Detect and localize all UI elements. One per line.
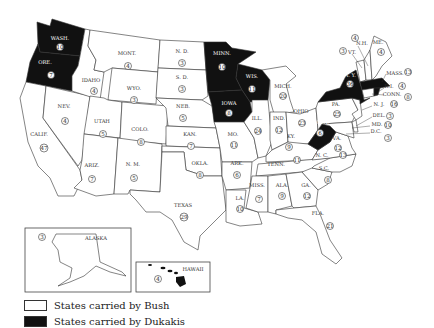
svg-text:KAN.: KAN. — [183, 131, 197, 137]
legend-swatch-bush — [24, 300, 47, 311]
svg-text:10: 10 — [236, 206, 244, 212]
svg-text:7: 7 — [189, 143, 193, 149]
legend-swatch-dukakis — [24, 316, 47, 327]
svg-text:24: 24 — [254, 128, 262, 134]
svg-text:GA.: GA. — [301, 182, 311, 188]
svg-text:ALA.: ALA. — [275, 182, 289, 188]
svg-text:16: 16 — [390, 101, 398, 107]
svg-text:8: 8 — [139, 139, 143, 145]
svg-text:12: 12 — [303, 193, 311, 199]
svg-text:4: 4 — [353, 35, 357, 41]
svg-text:VT.: VT. — [347, 49, 356, 55]
svg-text:MASS.: MASS. — [386, 70, 404, 76]
svg-text:N. J.: N. J. — [374, 101, 385, 108]
legend-label-bush: States carried by Bush — [54, 300, 170, 311]
svg-text:PA.: PA. — [332, 101, 341, 107]
svg-text:TENN.: TENN. — [267, 161, 285, 167]
svg-text:ARIZ.: ARIZ. — [84, 162, 100, 168]
svg-text:5: 5 — [132, 175, 136, 181]
svg-text:D.C.: D.C. — [370, 128, 381, 134]
svg-text:MO.: MO. — [228, 131, 239, 137]
hawaii-inset: HAWAII 4 — [136, 262, 210, 292]
legend-bush: States carried by Bush — [24, 300, 170, 311]
state-sd — [156, 68, 208, 100]
svg-text:3: 3 — [388, 113, 392, 119]
svg-text:S. D.: S. D. — [176, 74, 189, 80]
legend-dukakis: States carried by Dukakis — [24, 316, 185, 327]
svg-text:20: 20 — [279, 93, 287, 99]
label-wa: WASH. — [51, 35, 70, 41]
svg-text:N. C.: N. C. — [316, 152, 329, 158]
svg-text:MICH.: MICH. — [274, 83, 292, 89]
svg-text:8: 8 — [227, 110, 231, 116]
svg-text:TEXAS: TEXAS — [174, 202, 193, 208]
svg-text:4: 4 — [156, 276, 160, 282]
svg-text:4: 4 — [126, 63, 130, 69]
svg-text:8: 8 — [326, 177, 330, 183]
svg-text:NEV.: NEV. — [58, 103, 71, 109]
legend-label-dukakis: States carried by Dukakis — [54, 316, 185, 327]
alaska-inset: ALASKA 3 — [25, 228, 131, 292]
svg-text:CALIF.: CALIF. — [30, 131, 48, 137]
svg-text:UTAH: UTAH — [94, 118, 110, 124]
svg-text:13: 13 — [339, 152, 347, 158]
svg-text:12: 12 — [275, 127, 283, 133]
svg-text:CONN.: CONN. — [383, 91, 402, 97]
svg-text:11: 11 — [293, 157, 300, 163]
svg-text:9: 9 — [287, 144, 291, 150]
svg-text:ORE.: ORE. — [38, 59, 52, 65]
svg-text:WYO.: WYO. — [127, 85, 142, 91]
svg-text:KY.: KY. — [287, 133, 295, 139]
svg-text:7: 7 — [90, 176, 94, 182]
svg-text:6: 6 — [235, 172, 239, 178]
svg-text:3: 3 — [341, 48, 345, 54]
state-ri — [374, 88, 380, 96]
svg-text:ME.: ME. — [373, 39, 384, 45]
svg-text:OKLA.: OKLA. — [192, 160, 209, 166]
svg-text:10: 10 — [56, 44, 64, 50]
svg-text:23: 23 — [298, 120, 306, 126]
svg-text:HAWAII: HAWAII — [183, 266, 204, 272]
svg-text:W. VA.: W. VA. — [313, 119, 330, 125]
svg-text:R.I.: R.I. — [384, 83, 394, 89]
svg-text:12: 12 — [334, 145, 342, 151]
svg-text:OHIO: OHIO — [293, 108, 308, 114]
state-ia — [208, 90, 252, 122]
svg-text:N. Y.: N. Y. — [344, 72, 356, 78]
svg-text:NEB.: NEB. — [176, 103, 190, 109]
svg-text:ALASKA: ALASKA — [84, 235, 107, 241]
svg-text:3: 3 — [386, 135, 390, 141]
svg-text:LA.: LA. — [236, 195, 245, 201]
svg-text:MINN.: MINN. — [213, 50, 231, 56]
state-fl — [276, 206, 342, 264]
svg-text:7: 7 — [49, 72, 53, 78]
state-co — [120, 102, 168, 144]
svg-text:N. D.: N. D. — [175, 48, 188, 54]
svg-text:N.H.: N.H. — [356, 40, 368, 46]
svg-text:4: 4 — [379, 49, 383, 55]
svg-text:FLA.: FLA. — [312, 210, 325, 216]
svg-text:VA.: VA. — [332, 135, 342, 141]
svg-text:4: 4 — [400, 83, 404, 89]
svg-text:IDAHO: IDAHO — [82, 77, 101, 83]
svg-text:4: 4 — [63, 118, 67, 124]
us-electoral-map: WASH. 10 ORE. 7 CALIF. 47 NEV. 4 IDAHO 4… — [0, 0, 434, 328]
svg-text:N. M.: N. M. — [126, 161, 141, 167]
svg-text:11: 11 — [248, 86, 255, 92]
svg-text:DEL.: DEL. — [372, 112, 385, 118]
svg-text:10: 10 — [384, 122, 392, 128]
svg-text:3: 3 — [40, 234, 44, 240]
svg-text:WIS.: WIS. — [246, 73, 259, 79]
svg-text:9: 9 — [280, 193, 284, 199]
svg-text:4: 4 — [92, 88, 96, 94]
svg-text:MISS.: MISS. — [249, 182, 265, 188]
svg-text:ILL.: ILL. — [252, 115, 263, 121]
svg-text:3: 3 — [180, 86, 184, 92]
svg-text:IND.: IND. — [273, 115, 286, 121]
svg-text:29: 29 — [180, 214, 188, 220]
svg-text:10: 10 — [218, 64, 226, 70]
svg-text:IOWA: IOWA — [221, 100, 236, 106]
svg-text:7: 7 — [257, 196, 261, 202]
svg-text:ARK.: ARK. — [229, 160, 244, 166]
svg-text:8: 8 — [406, 94, 410, 100]
